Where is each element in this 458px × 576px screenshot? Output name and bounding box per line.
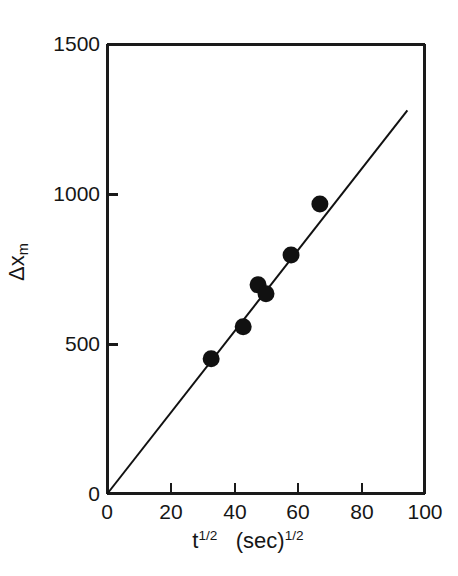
data-point-group	[203, 196, 329, 368]
y-tick-label-1000: 1000	[18, 182, 100, 206]
y-axis-ticks	[107, 45, 118, 494]
y-tick-label-500: 500	[18, 332, 100, 356]
x-tick-label-100: 100	[407, 500, 442, 524]
x-axis-title-unit-exponent: 1/2	[285, 528, 304, 543]
data-point	[283, 246, 300, 263]
data-point	[258, 285, 275, 302]
data-point	[311, 196, 328, 213]
y-axis-title-base: Δx	[4, 255, 29, 281]
x-axis-title: t1/2 (sec)1/2	[0, 528, 458, 554]
x-axis-ticks	[108, 483, 425, 494]
data-point	[235, 318, 252, 335]
x-tick-label-60: 60	[286, 500, 309, 524]
linear-fit-line	[108, 110, 408, 493]
y-axis-title: Δxm	[4, 242, 30, 282]
x-axis-title-unit: (sec)	[236, 528, 285, 553]
figure-container: 1500 1000 500 0 0 20 40 60 80 100 t1/2 (…	[0, 0, 458, 576]
y-tick-label-0: 0	[18, 482, 100, 506]
data-point	[203, 350, 220, 367]
axis-frame	[107, 44, 425, 494]
x-axis-title-base-exponent: 1/2	[198, 528, 217, 543]
x-tick-label-20: 20	[159, 500, 182, 524]
x-tick-label-0: 0	[101, 500, 113, 524]
x-tick-label-80: 80	[350, 500, 373, 524]
x-tick-label-40: 40	[223, 500, 246, 524]
y-tick-label-1500: 1500	[18, 32, 100, 56]
y-axis-title-subscript: m	[15, 243, 31, 255]
